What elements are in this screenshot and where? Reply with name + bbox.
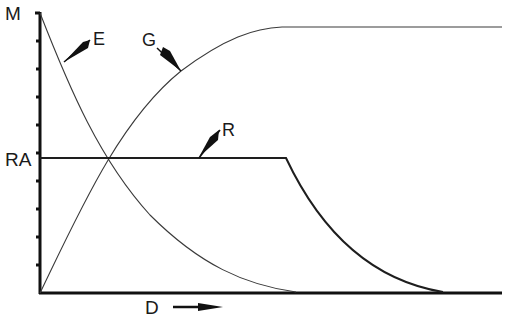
curve-r-label: R [222,120,235,140]
label-e-pointer: E [64,29,105,62]
y-axis-top-label: M [5,3,21,24]
curve-g-label: G [142,30,156,50]
x-axis-label: D [145,297,159,318]
label-g-pointer: G [142,30,181,71]
curve-e-label: E [93,29,105,49]
curve-r [40,158,443,292]
y-axis-ref-label: RA [5,149,32,170]
diagram: M RA D E G R [0,0,506,318]
label-r-pointer: R [199,120,235,158]
x-axis-direction-arrow-icon [173,303,223,311]
